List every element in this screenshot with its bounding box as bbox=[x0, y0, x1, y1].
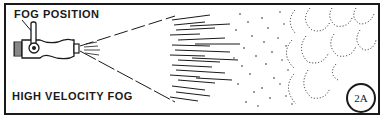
figure-number-badge: 2A bbox=[346, 83, 376, 113]
nozzle-icon bbox=[14, 22, 79, 59]
high-velocity-fog-label: HIGH VELOCITY FOG bbox=[12, 90, 133, 102]
fog-position-label: FOG POSITION bbox=[14, 8, 99, 20]
fog-droplets bbox=[233, 11, 292, 106]
spray-cone bbox=[80, 15, 240, 102]
